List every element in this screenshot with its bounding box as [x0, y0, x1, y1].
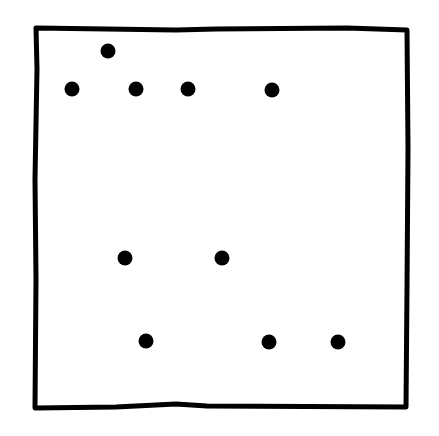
- dot: [65, 82, 80, 97]
- dot: [101, 44, 116, 59]
- dot: [181, 82, 196, 97]
- dot: [129, 82, 144, 97]
- dot: [265, 83, 280, 98]
- dot: [215, 251, 230, 266]
- dot: [139, 334, 154, 349]
- dot: [262, 335, 277, 350]
- background: [0, 0, 439, 436]
- dot: [118, 251, 133, 266]
- dot: [331, 335, 346, 350]
- sketch-canvas: [0, 0, 439, 436]
